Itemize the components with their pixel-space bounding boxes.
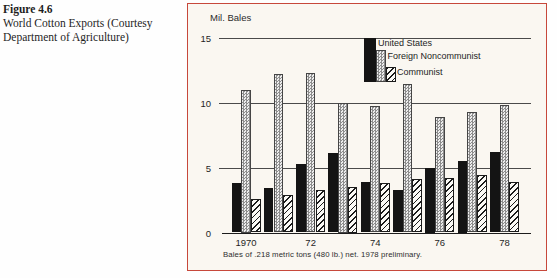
x-tick-label-78: 78 [499,237,510,248]
bar-1976-foreign-noncommunist [435,117,445,233]
legend-label-united-states: United States [378,38,432,48]
bar-1977-communist [477,175,487,232]
x-axis-line [222,233,531,234]
bar-1975-communist [412,179,422,232]
x-tick-label-72: 72 [305,237,316,248]
x-tick-label-76: 76 [435,237,446,248]
legend-swatch-united-states [364,38,376,82]
figure-number: Figure 4.6 [3,2,183,16]
figure-title-line2: Department of Agriculture) [3,30,183,44]
bar-1973-foreign-noncommunist [338,103,348,233]
bar-1971-communist [283,195,293,233]
bar-1972-foreign-noncommunist [306,73,316,233]
legend-label-foreign-noncommunist: Foreign Noncommunist [388,51,481,61]
bar-1977-united-states [458,161,468,233]
bar-1972-united-states [296,164,306,233]
bar-1974-united-states [361,182,371,233]
y-tick-label-15: 15 [189,32,211,43]
bar-1970-united-states [232,183,242,232]
bar-1976-united-states [425,168,435,233]
figure-caption: Figure 4.6 World Cotton Exports (Courtes… [3,2,183,44]
bar-1975-united-states [393,190,403,233]
bar-1978-united-states [490,152,500,233]
figure-title-line1: World Cotton Exports (Courtesy [3,16,183,30]
bar-1972-communist [316,190,326,233]
bar-1970-foreign-noncommunist [241,90,251,233]
page: Figure 4.6 World Cotton Exports (Courtes… [0,0,557,278]
bar-1973-communist [348,187,358,233]
chart-footnote: Bales of .218 metric tons (480 lb.) net.… [223,250,422,259]
bar-1978-communist [509,182,519,233]
y-axis-unit-label: Mil. Bales [210,12,251,23]
bar-1975-foreign-noncommunist [403,84,413,232]
bar-1971-foreign-noncommunist [274,74,284,233]
y-tick-label-0: 0 [189,227,211,238]
bar-1977-foreign-noncommunist [467,112,477,233]
legend-label-communist: Communist [397,67,443,77]
bar-1970-communist [251,199,261,233]
bar-1978-foreign-noncommunist [500,105,510,232]
bar-1971-united-states [264,188,274,232]
legend-swatch-communist [386,67,397,83]
y-tick-label-5: 5 [189,162,211,173]
gridline-10 [219,103,531,104]
legend-swatch-foreign-noncommunist [376,50,386,82]
x-tick-label-74: 74 [370,237,381,248]
bar-1974-foreign-noncommunist [370,106,380,232]
y-tick-label-10: 10 [189,97,211,108]
bar-1976-communist [445,178,455,233]
bar-1974-communist [380,183,390,232]
x-tick-label-1970: 1970 [235,237,256,248]
bar-1973-united-states [328,153,338,232]
